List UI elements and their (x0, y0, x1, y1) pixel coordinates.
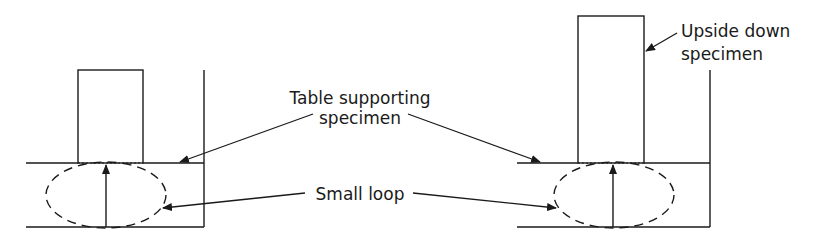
label-table-supporting-line1: Table supporting (289, 88, 431, 108)
arrow-upside-down-icon (646, 33, 677, 51)
diagram-canvas: Table supporting specimen Small loop Ups… (0, 0, 814, 238)
arrow-loop-right-icon (413, 193, 556, 208)
label-table-supporting-line2: specimen (319, 108, 401, 128)
label-upside-down-line2: specimen (681, 44, 763, 64)
label-small-loop: Small loop (316, 184, 405, 204)
right-small-loop (554, 162, 674, 228)
arrow-loop-left-icon (163, 193, 305, 208)
left-setup (26, 70, 204, 228)
label-upside-down-line1: Upside down (681, 21, 790, 41)
arrow-table-right-icon (408, 114, 540, 162)
arrow-table-left-icon (180, 114, 313, 162)
right-upside-down-specimen (578, 16, 644, 163)
left-specimen (78, 70, 143, 163)
